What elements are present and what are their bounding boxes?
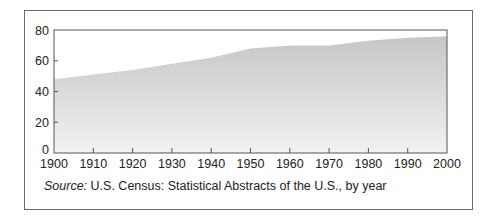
- source-caption: Source: U.S. Census: Statistical Abstrac…: [44, 179, 387, 193]
- y-tick-label: 40: [35, 85, 49, 99]
- x-tick-label: 1960: [276, 157, 304, 171]
- y-tick-label: 60: [35, 54, 49, 68]
- y-tick-label: 0: [42, 143, 49, 157]
- source-label: Source:: [44, 179, 87, 193]
- x-tick-label: 1970: [315, 157, 343, 171]
- area-series: [54, 36, 447, 153]
- x-tick-label: 1910: [79, 157, 107, 171]
- x-tick-label: 1900: [40, 157, 68, 171]
- source-text: U.S. Census: Statistical Abstracts of th…: [87, 179, 386, 193]
- x-tick-label: 1950: [237, 157, 265, 171]
- x-tick-label: 2000: [433, 157, 461, 171]
- x-tick-label: 1920: [119, 157, 147, 171]
- x-tick-label: 1930: [158, 157, 186, 171]
- x-tick-label: 1980: [354, 157, 382, 171]
- area-fill: [54, 36, 447, 153]
- x-tick-label: 1990: [394, 157, 422, 171]
- y-tick-label: 80: [35, 24, 49, 38]
- x-tick-label: 1940: [197, 157, 225, 171]
- y-tick-label: 20: [35, 116, 49, 130]
